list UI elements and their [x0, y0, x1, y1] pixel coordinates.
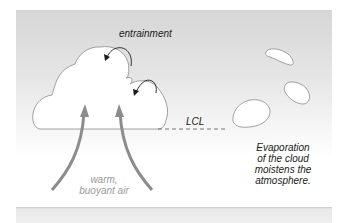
- warm-air-label: warm, buoyant air: [68, 174, 140, 196]
- lcl-label: LCL: [186, 116, 204, 127]
- diagram-canvas: [0, 0, 347, 223]
- cumulus-cloud: [33, 47, 168, 129]
- warm-air-line-2: buoyant air: [68, 185, 140, 196]
- cloud-fragment-bottom: [233, 100, 270, 128]
- evaporation-label: Evaporation of the cloud moistens the at…: [238, 142, 328, 186]
- warm-air-line-1: warm,: [68, 174, 140, 185]
- cloud-fragment-middle: [284, 82, 309, 104]
- evaporation-line-4: atmosphere.: [238, 175, 328, 186]
- cloud-fragment-top: [266, 49, 294, 65]
- evaporation-line-3: moistens the: [238, 164, 328, 175]
- evaporation-line-2: of the cloud: [238, 153, 328, 164]
- evaporation-line-1: Evaporation: [238, 142, 328, 153]
- entrainment-label: entrainment: [119, 28, 172, 39]
